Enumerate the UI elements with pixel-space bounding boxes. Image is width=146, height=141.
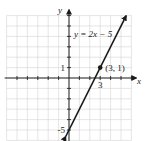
coordinate-plane: xyy = 2x − 5(3, 1)31-5 — [0, 0, 146, 141]
data-point — [98, 65, 103, 70]
y-tick-label: 1 — [61, 63, 66, 73]
y-axis-label: y — [57, 5, 62, 15]
point-label: (3, 1) — [105, 63, 125, 73]
axes — [5, 10, 137, 141]
x-axis-label: x — [136, 76, 141, 86]
x-tick-label: 3 — [98, 80, 103, 90]
equation-label: y = 2x − 5 — [73, 29, 113, 39]
y-tick-label: -5 — [58, 125, 66, 135]
